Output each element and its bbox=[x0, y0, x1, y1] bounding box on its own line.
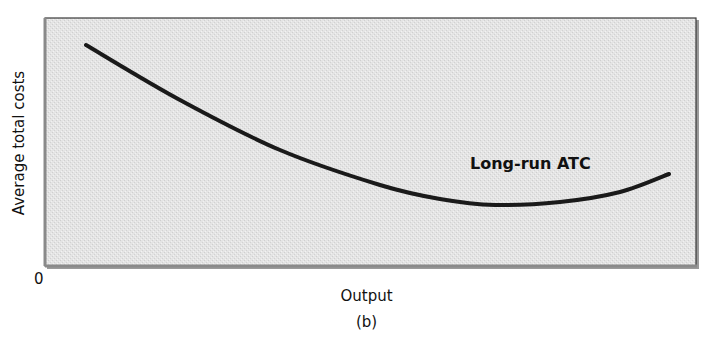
x-axis-label: Output bbox=[0, 287, 711, 305]
x-axis-label-text: Output bbox=[340, 287, 392, 305]
y-axis-label-text: Average total costs bbox=[10, 71, 28, 215]
origin-label: 0 bbox=[34, 270, 44, 288]
plot-area bbox=[45, 18, 696, 266]
curve-label: Long-run ATC bbox=[470, 154, 591, 173]
figure-caption-text: (b) bbox=[356, 313, 377, 331]
y-axis-label: Average total costs bbox=[8, 18, 30, 268]
figure-caption: (b) bbox=[0, 313, 711, 331]
